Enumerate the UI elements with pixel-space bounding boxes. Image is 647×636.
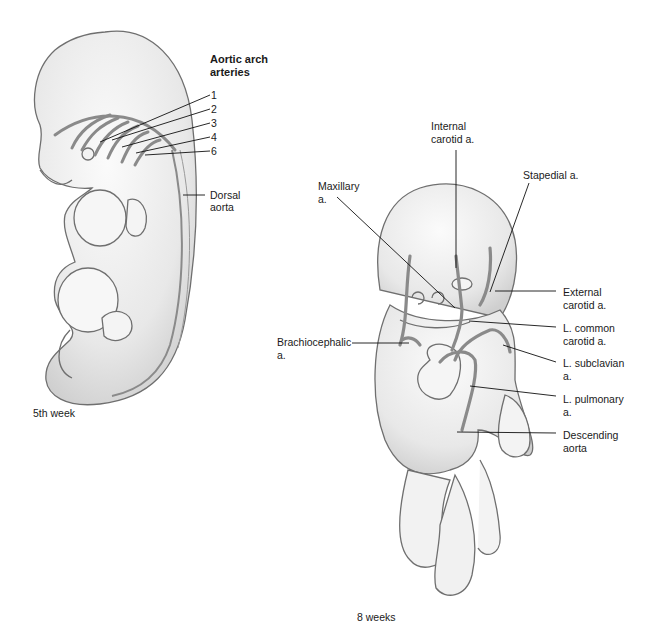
brachiocephalic-label-line1: Brachiocephalic xyxy=(277,336,351,348)
brachiocephalic-label-line2: a. xyxy=(277,349,286,361)
l-subclavian-label-line1: L. subclavian xyxy=(563,357,624,369)
l-subclavian-label-line2: a. xyxy=(563,370,572,382)
arch-number-2: 2 xyxy=(211,103,217,115)
embryo-8-weeks xyxy=(375,184,533,595)
external-carotid-label-line1: External xyxy=(563,286,602,298)
maxillary-label-line1: Maxillary xyxy=(318,180,359,192)
aortic-arch-heading-line1: Aortic arch xyxy=(210,53,268,66)
internal-carotid-label-line1: Internal xyxy=(431,120,466,132)
stapedial-label: Stapedial a. xyxy=(523,169,578,181)
arch-number-6: 6 xyxy=(211,145,217,157)
internal-carotid-label-line2: carotid a. xyxy=(431,133,474,145)
embryo-illustrations xyxy=(0,0,647,636)
l-pulmonary-label-line2: a. xyxy=(563,406,572,418)
maxillary-label-line2: a. xyxy=(318,193,327,205)
arch-number-4: 4 xyxy=(211,131,217,143)
l-common-carotid-label-line2: carotid a. xyxy=(563,335,606,347)
caption-8-weeks: 8 weeks xyxy=(357,611,396,623)
external-carotid-label-line2: carotid a. xyxy=(563,299,606,311)
l-common-carotid-label-line1: L. common xyxy=(563,322,615,334)
embryo-5th-week xyxy=(35,31,197,405)
l-pulmonary-label-line1: L. pulmonary xyxy=(563,393,624,405)
dorsal-aorta-label-line1: Dorsal xyxy=(210,189,240,201)
aortic-arch-heading-line2: arteries xyxy=(210,66,250,79)
caption-5th-week: 5th week xyxy=(33,407,75,419)
arch-number-3: 3 xyxy=(211,117,217,129)
arch-number-1: 1 xyxy=(211,89,217,101)
descending-aorta-label-line2: aorta xyxy=(563,442,587,454)
dorsal-aorta-label-line2: aorta xyxy=(210,201,234,213)
descending-aorta-label-line1: Descending xyxy=(563,429,618,441)
